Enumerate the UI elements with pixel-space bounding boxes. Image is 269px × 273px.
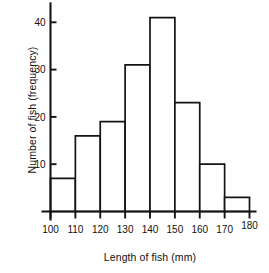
- x-tick-label: 110: [67, 224, 83, 235]
- histogram-bar: [175, 103, 200, 212]
- x-tick-label: 100: [42, 224, 59, 235]
- histogram-bar: [200, 164, 225, 211]
- plot-area: 10203040 100110120130140150160170180: [0, 0, 269, 273]
- histogram-figure: Number of fish (frequency) Length of fis…: [0, 0, 269, 273]
- x-tick-label: 150: [167, 224, 184, 235]
- y-tick-label: 10: [34, 159, 46, 170]
- histogram-bar: [51, 178, 76, 211]
- x-tick-label: 130: [117, 224, 134, 235]
- histogram-bar: [225, 197, 250, 211]
- x-tick-label: 180: [241, 220, 258, 231]
- histogram-bar: [125, 65, 150, 212]
- x-tick-label: 160: [191, 224, 208, 235]
- x-tick-labels-group: 100110120130140150160170180: [42, 220, 258, 235]
- y-tick-label: 20: [34, 112, 46, 123]
- histogram-bar: [100, 122, 125, 212]
- bars-group: [51, 18, 250, 212]
- y-tick-label: 40: [34, 17, 46, 28]
- y-tick-labels-group: 10203040: [34, 17, 46, 170]
- y-tick-label: 30: [34, 64, 46, 75]
- histogram-bar: [75, 136, 100, 212]
- x-tick-label: 120: [92, 224, 109, 235]
- x-tick-label: 140: [142, 224, 159, 235]
- histogram-bar: [150, 18, 175, 212]
- x-tick-label: 170: [216, 224, 233, 235]
